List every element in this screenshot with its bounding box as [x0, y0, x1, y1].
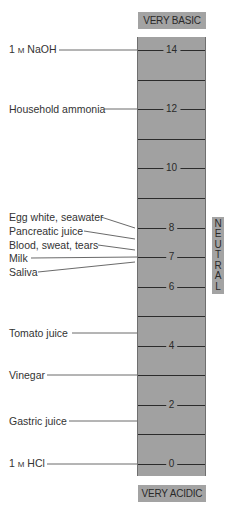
substance-label-naoh: 1 M NaOH [9, 43, 57, 57]
substance-label-gastric-juice: Gastric juice [9, 415, 67, 427]
substance-label-vinegar: Vinegar [9, 369, 45, 381]
substance-label-egg-white: Egg white, seawater [9, 211, 104, 223]
substance-label-milk: Milk [9, 252, 28, 264]
substance-label-saliva: Saliva [9, 266, 38, 278]
substance-label-tomato-juice: Tomato juice [9, 327, 68, 339]
substance-label-ammonia: Household ammonia [9, 103, 105, 115]
leader-lines [0, 0, 231, 507]
substance-label-pancreatic-juice: Pancreatic juice [9, 225, 83, 237]
substance-label-blood: Blood, sweat, tears [9, 239, 98, 251]
substance-label-hcl: 1 M HCl [9, 457, 45, 471]
